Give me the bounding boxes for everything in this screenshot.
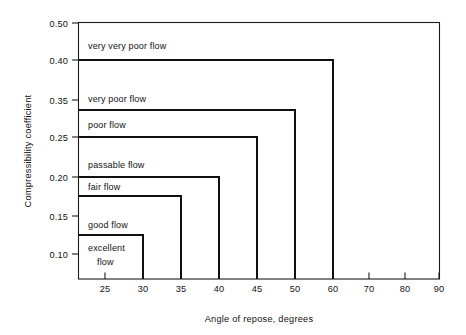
x-tick-label-35: 35 (176, 284, 187, 294)
x-tick-label-30: 30 (138, 284, 149, 294)
y-tick-label-0.40: 0.40 (50, 56, 68, 66)
region-label-passable-flow: passable flow (88, 160, 145, 170)
region-label-very-very-poor-flow: very very poor flow (88, 41, 167, 51)
y-tick-label-0.15: 0.15 (50, 212, 68, 222)
x-tick-label-70: 70 (364, 284, 375, 294)
y-tick-label-0.35: 0.35 (50, 96, 68, 106)
x-tick-label-45: 45 (252, 284, 263, 294)
x-tick-label-25: 25 (100, 284, 111, 294)
region-label-excellent-flow-line1: excellent (88, 243, 125, 253)
y-axis-title: Compressibility coefficient (23, 94, 33, 207)
chart-background (0, 0, 466, 335)
x-tick-label-50: 50 (290, 284, 301, 294)
chart-figure: 0.50 0.40 0.35 0.25 0.20 0.15 0.10 25 30… (0, 0, 466, 335)
region-label-fair-flow: fair flow (88, 182, 121, 192)
region-label-very-poor-flow: very poor flow (88, 94, 146, 104)
region-label-good-flow: good flow (88, 220, 128, 230)
y-tick-label-0.10: 0.10 (50, 250, 68, 260)
region-label-excellent-flow-line2: flow (97, 257, 114, 267)
y-tick-label-0.25: 0.25 (50, 133, 68, 143)
y-tick-label-0.50: 0.50 (50, 19, 68, 29)
x-tick-label-60: 60 (328, 284, 339, 294)
compressibility-angle-of-repose-chart: 0.50 0.40 0.35 0.25 0.20 0.15 0.10 25 30… (0, 0, 466, 335)
x-tick-label-90: 90 (434, 284, 445, 294)
x-tick-label-40: 40 (214, 284, 225, 294)
x-tick-label-80: 80 (400, 284, 411, 294)
x-axis-title: Angle of repose, degrees (205, 314, 314, 324)
y-tick-label-0.20: 0.20 (50, 173, 68, 183)
region-label-poor-flow: poor flow (88, 120, 126, 130)
